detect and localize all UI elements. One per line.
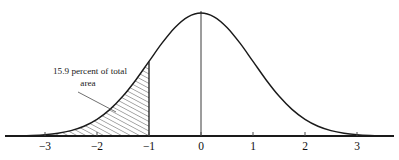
x-axis-tick-label: 0 [198,140,204,152]
x-axis-tick-label: 3 [354,140,360,152]
x-axis-tick-label: −2 [91,140,103,152]
normal-distribution-figure: −3−2−10123 15.9 percent of total area [0,0,399,160]
x-axis-tick-label: −3 [39,140,51,152]
annotation-line-1: 15.9 percent of total [53,66,127,76]
annotation-line-2: area [80,78,95,88]
x-axis-tick-label: 2 [302,140,308,152]
x-axis-tick-label: 1 [250,140,256,152]
annotation-leader-line [78,92,116,112]
x-axis-tick-label: −1 [143,140,155,152]
x-axis-tick-labels: −3−2−10123 [39,140,360,152]
distribution-chart: −3−2−10123 15.9 percent of total area [0,0,399,160]
